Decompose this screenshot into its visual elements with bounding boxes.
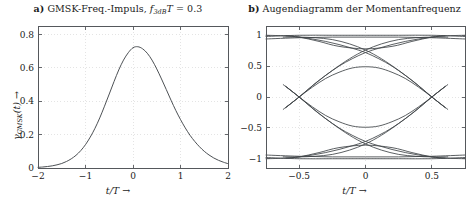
panel-b-x-axis-caption: t/T → xyxy=(236,185,473,196)
y-tick-label: 0 xyxy=(256,92,262,102)
y-caption-subscript: GMSK xyxy=(16,113,24,134)
x-tick-label: 0 xyxy=(130,171,136,181)
x-tick-label: 1 xyxy=(178,171,184,181)
panel-a-y-axis-caption: γGMSK(t) → xyxy=(11,91,24,140)
y-caption-arrow: → xyxy=(11,91,22,99)
y-tick-label: −1 xyxy=(249,154,262,164)
tick-labels: −2−101200.20.40.60.8 xyxy=(20,30,231,181)
panel-b-plot: −0.500.5−1−0.500.51 xyxy=(236,0,473,208)
figure-container: a) GMSK-Freq.-Impuls, f3dBT = 0.3 −2−101… xyxy=(0,0,473,208)
y-tick-label: −0.5 xyxy=(240,123,262,133)
x-tick-label: −0.5 xyxy=(288,171,310,181)
y-tick-label: 1 xyxy=(256,30,262,40)
curve-rise-steep-b xyxy=(283,37,448,109)
y-tick-label: 0.5 xyxy=(248,61,263,71)
x-tick-label: 2 xyxy=(225,171,231,181)
curve-fall-steep-b xyxy=(283,85,448,157)
panel-gmsk-frequency-pulse: a) GMSK-Freq.-Impuls, f3dBT = 0.3 −2−101… xyxy=(0,0,236,208)
y-caption-gamma: γ xyxy=(11,134,22,140)
gridlines xyxy=(266,26,465,168)
panel-eye-diagram: b) Augendiagramm der Momentanfrequenz −0… xyxy=(236,0,473,208)
x-tick-label: 0.5 xyxy=(425,171,440,181)
curve-rise-steep-a xyxy=(283,37,448,109)
x-tick-label: −1 xyxy=(79,171,92,181)
panel-a-x-axis-caption: t/T → xyxy=(0,185,236,196)
y-caption-arg: (t) xyxy=(11,102,22,113)
y-tick-label: 0 xyxy=(28,163,34,173)
y-tick-label: 0.6 xyxy=(20,63,35,73)
curve-fall-steep-a xyxy=(283,85,448,157)
panel-a-plot: −2−101200.20.40.60.8 xyxy=(0,0,236,208)
y-tick-label: 0.8 xyxy=(20,30,35,40)
x-tick-label: 0 xyxy=(363,171,369,181)
